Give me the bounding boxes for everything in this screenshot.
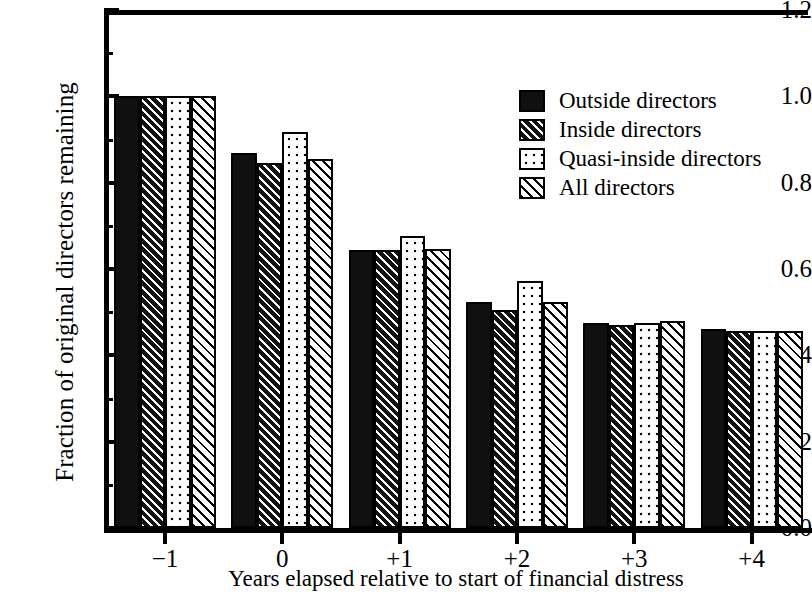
x-axis-title: Years elapsed relative to start of finan… bbox=[100, 566, 812, 592]
bar bbox=[165, 96, 191, 528]
bar bbox=[349, 250, 375, 528]
legend-item: Quasi-inside directors bbox=[519, 144, 761, 173]
y-tick-major bbox=[104, 8, 119, 12]
bar bbox=[609, 325, 635, 528]
bar bbox=[400, 236, 426, 528]
bar bbox=[140, 96, 166, 528]
x-axis-line bbox=[104, 528, 812, 533]
x-tick bbox=[750, 533, 754, 544]
bar bbox=[257, 163, 283, 528]
bar bbox=[492, 310, 518, 528]
bar bbox=[517, 281, 543, 528]
bar bbox=[726, 331, 752, 528]
legend-item: Outside directors bbox=[519, 86, 761, 115]
legend-item: Inside directors bbox=[519, 115, 761, 144]
bar bbox=[374, 250, 400, 528]
x-tick bbox=[515, 533, 519, 544]
y-axis-title: Fraction of original directors remaining bbox=[51, 32, 79, 532]
y-tick-minor bbox=[104, 225, 113, 228]
bar bbox=[308, 159, 334, 528]
y-tick-minor bbox=[104, 484, 113, 487]
x-tick bbox=[280, 533, 284, 544]
y-tick-minor bbox=[104, 398, 113, 401]
legend-swatch bbox=[519, 148, 545, 170]
legend-item: All directors bbox=[519, 173, 761, 202]
chart-legend: Outside directorsInside directorsQuasi-i… bbox=[519, 86, 761, 202]
legend-swatch bbox=[519, 119, 545, 141]
y-tick-minor bbox=[104, 52, 113, 55]
bar bbox=[425, 249, 451, 528]
x-tick bbox=[632, 533, 636, 544]
legend-swatch bbox=[519, 177, 545, 199]
x-tick bbox=[398, 533, 402, 544]
y-tick-label: 1.2 bbox=[720, 0, 812, 22]
bar bbox=[191, 96, 217, 528]
legend-label: All directors bbox=[559, 176, 675, 199]
bar-chart-figure: Fraction of original directors remaining… bbox=[0, 0, 812, 595]
legend-swatch bbox=[519, 90, 545, 112]
x-tick bbox=[163, 533, 167, 544]
legend-label: Inside directors bbox=[559, 118, 701, 141]
bar bbox=[231, 153, 257, 528]
bar bbox=[282, 132, 308, 528]
bar bbox=[466, 302, 492, 528]
bar bbox=[583, 323, 609, 528]
bar bbox=[114, 96, 140, 528]
legend-label: Quasi-inside directors bbox=[559, 147, 761, 170]
y-tick-minor bbox=[104, 139, 113, 142]
bar bbox=[701, 329, 727, 528]
bar bbox=[543, 302, 569, 528]
bar bbox=[634, 323, 660, 528]
bar bbox=[752, 331, 778, 528]
bar bbox=[777, 331, 803, 528]
legend-label: Outside directors bbox=[559, 89, 717, 112]
y-tick-label: 0.6 bbox=[720, 256, 812, 281]
y-tick-minor bbox=[104, 311, 113, 314]
bar bbox=[660, 321, 686, 528]
